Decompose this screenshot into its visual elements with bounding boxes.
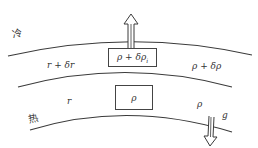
lower-boundary-curve [30, 115, 232, 132]
buoyancy-up-arrow-icon [124, 14, 138, 48]
diagram-lines [0, 0, 258, 148]
gravity-label: g [222, 111, 228, 120]
lower-rho-label: ρ [197, 100, 202, 109]
upper-rho-label: ρ + δρ [192, 62, 221, 71]
hot-label: 热 [27, 113, 39, 125]
upper-parcel-box: ρ + δρi [108, 48, 157, 67]
upper-parcel-label: ρ + δρ [117, 52, 146, 62]
lower-parcel-label: ρ [131, 93, 136, 103]
gravity-down-arrow-icon [204, 116, 217, 146]
convection-diagram: ρ + δρi ρ 冷 热 r + δr r ρ + δρ ρ g [0, 0, 258, 148]
cold-label: 冷 [11, 28, 23, 40]
lower-parcel-box: ρ [115, 85, 153, 110]
lower-r-label: r [67, 97, 71, 106]
upper-r-label: r + δr [47, 61, 74, 70]
upper-parcel-subscript: i [146, 56, 148, 63]
